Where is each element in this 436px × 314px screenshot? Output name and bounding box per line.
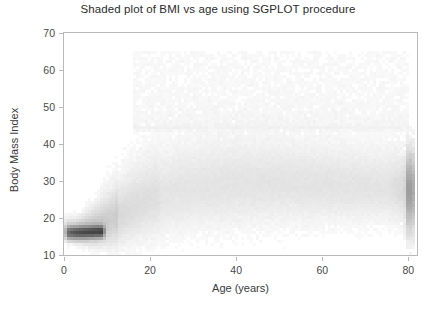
y-axis-tick-mark	[59, 144, 63, 145]
x-axis-tick-mark	[64, 257, 65, 261]
x-axis-label: Age (years)	[63, 282, 418, 294]
y-axis-tick-mark	[59, 181, 63, 182]
x-axis-tick-mark	[236, 257, 237, 261]
y-axis-tick-mark	[59, 33, 63, 34]
plot-frame	[63, 32, 418, 256]
page-title: Shaded plot of BMI vs age using SGPLOT p…	[0, 3, 436, 15]
x-axis-tick-label: 0	[61, 264, 67, 276]
x-axis-tick-mark	[408, 257, 409, 261]
y-axis-tick-label: 70	[24, 27, 55, 39]
x-axis-tick-label: 60	[316, 264, 328, 276]
y-axis-tick-mark	[59, 255, 63, 256]
density-scatter-canvas	[64, 33, 417, 255]
y-axis-tick-mark	[59, 70, 63, 71]
y-axis-tick-label: 40	[24, 138, 55, 150]
y-axis-tick-label: 60	[24, 64, 55, 76]
y-axis-tick-mark	[59, 107, 63, 108]
x-axis-tick-mark	[150, 257, 151, 261]
x-axis-tick-mark	[322, 257, 323, 261]
x-axis-tick-label: 80	[403, 264, 415, 276]
y-axis-tick-label: 50	[24, 101, 55, 113]
y-axis-tick-label: 30	[24, 175, 55, 187]
chart-figure: Shaded plot of BMI vs age using SGPLOT p…	[0, 0, 436, 314]
x-axis-tick-label: 40	[230, 264, 242, 276]
y-axis-tick-label: 10	[24, 249, 55, 261]
x-axis-tick-label: 20	[144, 264, 156, 276]
y-axis-tick-label: 20	[24, 212, 55, 224]
y-axis-tick-mark	[59, 218, 63, 219]
y-axis-label: Body Mass Index	[8, 90, 20, 210]
